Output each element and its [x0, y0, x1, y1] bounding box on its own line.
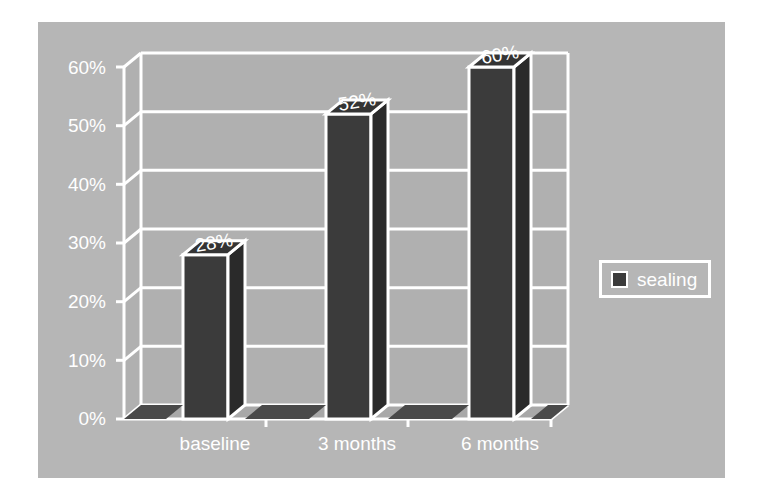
- bar-side-face-baseline: [228, 241, 245, 419]
- x-axis-label-6months: 6 months: [440, 434, 560, 453]
- chart-bar-baseline: [183, 241, 245, 419]
- x-axis-label-3months: 3 months: [297, 434, 417, 453]
- chart-legend: sealing: [599, 260, 711, 298]
- legend-label-sealing: sealing: [637, 270, 697, 289]
- x-axis-label-baseline: baseline: [155, 434, 275, 453]
- y-axis-label-50: 50%: [42, 116, 106, 135]
- chart-plot-area: 60% 50% 40% 30% 20% 10% 0% baseline 3 mo…: [38, 22, 725, 478]
- y-axis-label-20: 20%: [42, 292, 106, 311]
- chart-bar-6months: [469, 53, 531, 419]
- y-axis-label-60: 60%: [42, 58, 106, 77]
- bar-front-face-3months: [326, 114, 371, 419]
- y-axis-label-30: 30%: [42, 233, 106, 252]
- bar-front-face-baseline: [183, 255, 228, 419]
- y-axis-label-0: 0%: [42, 409, 106, 428]
- y-axis-label-40: 40%: [42, 175, 106, 194]
- legend-swatch-sealing: [611, 271, 628, 288]
- bar-side-face-3months: [371, 100, 388, 419]
- y-axis-label-10: 10%: [42, 351, 106, 370]
- bar-side-face-6months: [514, 53, 531, 419]
- bar-front-face-6months: [469, 67, 514, 419]
- chart-image: 60% 50% 40% 30% 20% 10% 0% baseline 3 mo…: [0, 0, 759, 502]
- chart-bar-3months: [326, 100, 388, 419]
